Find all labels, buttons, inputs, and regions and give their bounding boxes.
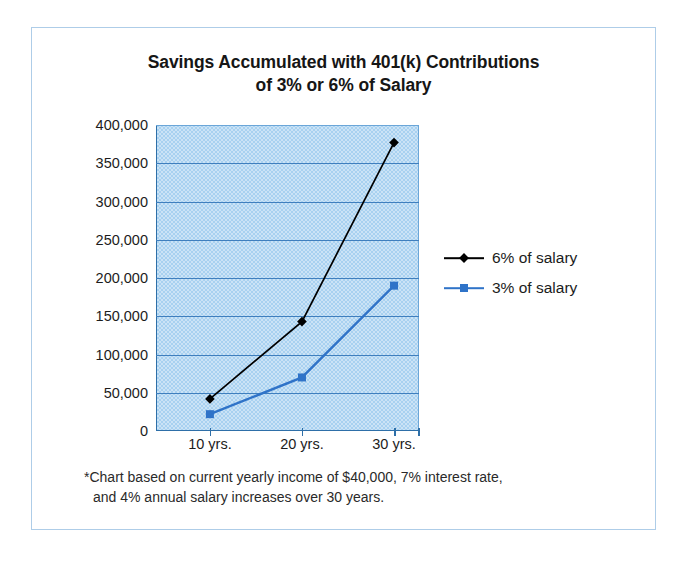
y-axis-tick-label: 50,000	[70, 385, 148, 401]
legend-item-3-percent: 3% of salary	[444, 273, 634, 303]
series-line-1	[210, 143, 394, 399]
legend-label-6-percent: 6% of salary	[492, 249, 577, 267]
data-point-square	[206, 410, 214, 418]
y-axis-tick-label: 200,000	[70, 270, 148, 286]
y-axis-tick-labels: 400,000350,000300,000250,000200,000150,0…	[70, 125, 148, 431]
y-axis-tick-label: 0	[70, 423, 148, 439]
y-axis-tick-label: 250,000	[70, 232, 148, 248]
chart-legend: 6% of salary 3% of salary	[444, 243, 634, 303]
plot-area	[156, 125, 419, 431]
x-axis-tick	[394, 428, 396, 436]
legend-marker-diamond-icon	[444, 251, 484, 265]
chart-card: Savings Accumulated with 401(k) Contribu…	[31, 27, 656, 530]
x-axis-tick	[210, 428, 212, 436]
legend-label-3-percent: 3% of salary	[492, 279, 577, 297]
x-axis-tick-label: 10 yrs.	[188, 436, 232, 452]
x-axis-tick	[302, 428, 304, 436]
chart-footnote: *Chart based on current yearly income of…	[84, 468, 554, 508]
y-axis-tick-label: 150,000	[70, 308, 148, 324]
legend-item-6-percent: 6% of salary	[444, 243, 634, 273]
y-axis-tick-label: 100,000	[70, 347, 148, 363]
x-axis-tick-label: 20 yrs.	[280, 436, 324, 452]
chart-title-line-2: of 3% or 6% of Salary	[32, 74, 655, 97]
series-line-2	[210, 286, 394, 415]
data-point-diamond	[389, 138, 399, 148]
legend-marker-square-icon	[444, 281, 484, 295]
data-series-layer	[156, 125, 419, 431]
chart-title: Savings Accumulated with 401(k) Contribu…	[32, 51, 655, 97]
x-axis-tick-labels: 10 yrs.20 yrs.30 yrs.	[156, 436, 419, 460]
y-axis-tick-label: 300,000	[70, 194, 148, 210]
footnote-line-2: and 4% annual salary increases over 30 y…	[84, 488, 554, 508]
chart-title-line-1: Savings Accumulated with 401(k) Contribu…	[32, 51, 655, 74]
x-axis-tick-label: 30 yrs.	[372, 436, 416, 452]
data-point-square	[390, 282, 398, 290]
footnote-line-1: *Chart based on current yearly income of…	[84, 468, 554, 488]
y-axis-tick-label: 350,000	[70, 155, 148, 171]
data-point-square	[298, 373, 306, 381]
y-axis-tick-label: 400,000	[70, 117, 148, 133]
x-axis-end-tick	[418, 428, 420, 436]
